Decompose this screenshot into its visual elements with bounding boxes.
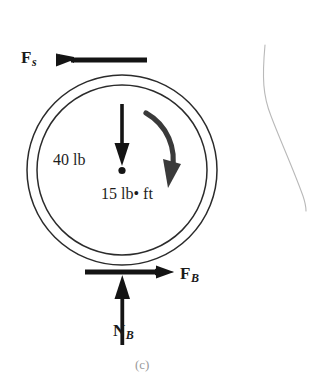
force-fs-subscript: s — [31, 55, 36, 69]
force-fs-label: Fs — [21, 49, 37, 68]
force-fb-subscript: B — [190, 271, 199, 285]
page-edge-curve — [263, 45, 306, 211]
moment-arrow — [146, 113, 181, 188]
force-fb-symbol: F — [180, 264, 190, 283]
normal-force-subscript: B — [125, 328, 134, 342]
weight-arrow — [115, 104, 130, 174]
moment-value-label: 15 lb• ft — [101, 186, 153, 202]
force-fb-arrow — [85, 266, 174, 279]
free-body-diagram-figure: Fs FB NB 40 lb 15 lb• ft (c) — [0, 0, 314, 380]
normal-force-label: NB — [113, 322, 134, 341]
force-fs-symbol: F — [21, 48, 31, 67]
normal-force-symbol: N — [113, 321, 125, 340]
weight-value-label: 40 lb — [53, 152, 85, 168]
force-fb-label: FB — [180, 265, 199, 284]
figure-caption: (c) — [135, 358, 149, 371]
diagram-canvas — [0, 0, 314, 380]
force-fs-arrow — [56, 54, 147, 67]
